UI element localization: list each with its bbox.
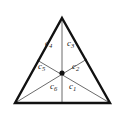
region-label-c5-subscript: 5: [42, 65, 45, 72]
interior-cevian-group: [15, 18, 110, 103]
region-label-c5: c5: [38, 62, 45, 72]
region-label-c3: c3: [67, 39, 74, 49]
region-label-c1-subscript: 1: [73, 85, 76, 92]
region-label-c6-subscript: 6: [54, 85, 57, 92]
triangle-diagram-figure: c1 c2 c3 c4 c5 c6: [0, 0, 118, 114]
region-label-c4: c4: [45, 39, 52, 49]
region-label-c6: c6: [50, 82, 57, 92]
region-label-c1: c1: [69, 82, 76, 92]
region-label-c2-subscript: 2: [76, 65, 79, 72]
region-label-c2: c2: [72, 62, 79, 72]
triangle-outline: [15, 18, 110, 103]
region-label-c3-subscript: 3: [71, 42, 74, 49]
region-label-c4-subscript: 4: [49, 42, 52, 49]
center-point-dot: [59, 70, 64, 75]
triangle-diagram-svg: [0, 0, 118, 114]
